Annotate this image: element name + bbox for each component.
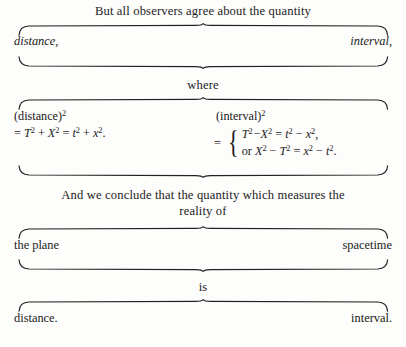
equation-distance-label-text: (distance) — [14, 109, 62, 123]
row-conclusion-terms: distance. interval. — [0, 311, 406, 326]
equation-distance-terminator: . — [102, 126, 105, 140]
left-curly-brace-icon: { — [228, 131, 239, 155]
equation-interval: (interval)2 = { T2 −X2 = t2 − x2, or X2 … — [214, 108, 337, 160]
equation-interval-label-exponent: 2 — [261, 109, 265, 118]
case-line-1: T2 −X2 = t2 − x2, — [242, 127, 319, 141]
caption-conclusion: And we conclude that the quantity which … — [0, 188, 406, 219]
equals-sign-interval: = — [214, 135, 221, 152]
underbrace-quantity — [0, 56, 406, 69]
term-right-interval: interval, — [350, 34, 392, 49]
equation-interval-cases: = { T2 −X2 = t2 − x2, or X2 − T2 = x2 − … — [214, 126, 337, 160]
row-plane-spacetime: the plane spacetime — [0, 238, 406, 253]
term-right-spacetime: spacetime — [342, 238, 392, 253]
equation-distance-body: = T2 + X2 = t2 + x2. — [14, 125, 214, 142]
figure-panel: But all observers agree about the quanti… — [0, 0, 406, 347]
caption-conclusion-line-1: And we conclude that the quantity which … — [0, 188, 406, 204]
equation-distance-label: (distance)2 — [14, 108, 214, 125]
row-equations: (distance)2 = T2 + X2 = t2 + x2. (interv… — [0, 108, 406, 160]
term-left-distance-final: distance. — [14, 311, 58, 326]
equation-distance-label-exponent: 2 — [62, 109, 66, 118]
equals-sign: = — [14, 126, 21, 140]
underbrace-equations — [0, 165, 406, 178]
underbrace-plane-spacetime — [0, 259, 406, 272]
row-quantity-terms: distance, interval, — [0, 34, 406, 49]
caption-where: where — [0, 78, 406, 94]
term-left-distance: distance, — [14, 34, 58, 49]
term-left-the-plane: the plane — [14, 238, 59, 253]
caption-is: is — [0, 280, 406, 296]
title-caption: But all observers agree about the quanti… — [0, 4, 406, 20]
term-right-interval-final: interval. — [351, 311, 392, 326]
case-line-2: or X2 − T2 = x2 − t2. — [242, 144, 337, 158]
equation-interval-label: (interval)2 — [214, 108, 337, 125]
caption-conclusion-line-2: reality of — [0, 204, 406, 220]
equation-distance: (distance)2 = T2 + X2 = t2 + x2. — [14, 108, 214, 160]
equation-interval-label-text: (interval) — [216, 109, 261, 123]
